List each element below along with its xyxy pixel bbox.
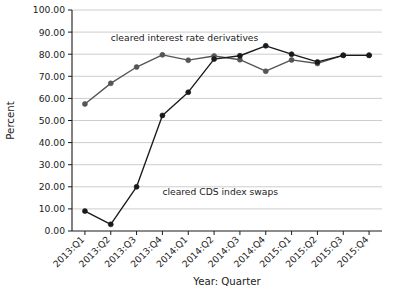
series-line-1: [85, 55, 369, 104]
data-point-marker: [160, 52, 165, 57]
y-tick-label: 70.00: [39, 71, 65, 82]
y-tick-label: 90.00: [39, 27, 65, 38]
y-axis-title: Percent: [5, 101, 16, 139]
y-tick-label: 100.00: [33, 4, 65, 15]
data-point-marker: [263, 69, 268, 74]
data-point-marker: [160, 113, 165, 118]
data-point-marker: [108, 81, 113, 86]
data-point-marker: [186, 58, 191, 63]
line-chart: 0.0010.0020.0030.0040.0050.0060.0070.008…: [0, 0, 395, 290]
data-point-marker: [315, 59, 320, 64]
x-tickmarks-group: [85, 231, 369, 235]
y-tick-label: 40.00: [39, 137, 65, 148]
y-tick-label: 80.00: [39, 49, 65, 60]
series-layer: [82, 43, 371, 227]
data-point-marker: [82, 209, 87, 214]
data-point-marker: [289, 52, 294, 57]
data-point-marker: [82, 101, 87, 106]
data-point-marker: [289, 57, 294, 62]
data-point-marker: [108, 222, 113, 227]
x-tick-labels-group: 2013:Q12013:Q22013:Q32013:Q42014:Q12014:…: [51, 234, 371, 270]
y-tick-label: 10.00: [39, 203, 65, 214]
annotations-layer: cleared interest rate derivativescleared…: [111, 32, 279, 197]
y-tickmarks-group: [68, 10, 72, 231]
y-tick-label: 20.00: [39, 181, 65, 192]
y-tick-label: 60.00: [39, 93, 65, 104]
data-point-marker: [212, 57, 217, 62]
data-point-marker: [134, 65, 139, 70]
x-axis-title: Year: Quarter: [192, 276, 261, 287]
series-annotation-1: cleared interest rate derivatives: [111, 32, 259, 43]
series-annotation-2: cleared CDS index swaps: [162, 186, 278, 197]
y-tick-label: 0.00: [45, 225, 66, 236]
y-tick-label: 50.00: [39, 115, 65, 126]
data-point-marker: [263, 43, 268, 48]
chart-container: 0.0010.0020.0030.0040.0050.0060.0070.008…: [0, 0, 395, 290]
y-tick-labels-group: 0.0010.0020.0030.0040.0050.0060.0070.008…: [33, 4, 65, 236]
data-point-marker: [367, 53, 372, 58]
data-point-marker: [237, 53, 242, 58]
y-tick-label: 30.00: [39, 159, 65, 170]
data-point-marker: [186, 90, 191, 95]
data-point-marker: [134, 184, 139, 189]
data-point-marker: [341, 53, 346, 58]
